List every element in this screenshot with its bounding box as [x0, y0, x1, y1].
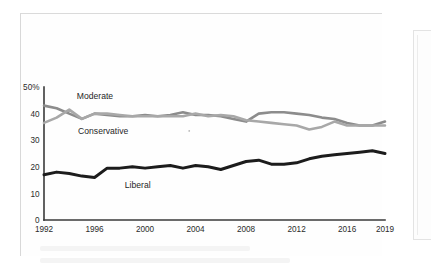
x-tick-label: 1996: [85, 225, 104, 234]
figure-page: 01020304050% 199219962000200420082012201…: [0, 0, 431, 268]
x-axis-tick-labels: 19921996200020042008201220162019: [35, 225, 395, 234]
series-label-conservative: Conservative: [78, 126, 128, 136]
line-chart[interactable]: 01020304050% 199219962000200420082012201…: [0, 0, 431, 268]
y-tick-label: 50%: [23, 83, 39, 92]
y-tick-label: 20: [30, 163, 40, 172]
y-tick-label: 30: [30, 136, 40, 145]
series-inline-labels: ModerateConservativeLiberal: [77, 91, 151, 190]
series-line-liberal[interactable]: [44, 151, 385, 178]
x-tick-label: 2016: [338, 225, 357, 234]
x-tick-label: 2004: [186, 225, 205, 234]
x-tick-label: 2019: [376, 225, 395, 234]
y-tick-label: 10: [30, 190, 40, 199]
series-label-liberal: Liberal: [125, 180, 151, 190]
series-lines[interactable]: [44, 106, 385, 178]
y-axis-tick-labels: 01020304050%: [23, 83, 40, 225]
scan-speck: [188, 130, 190, 132]
y-tick-label: 40: [30, 110, 40, 119]
x-tick-label: 2000: [136, 225, 155, 234]
x-tick-label: 2008: [237, 225, 256, 234]
x-tick-label: 1992: [35, 225, 54, 234]
series-label-moderate: Moderate: [77, 91, 114, 101]
x-tick-label: 2012: [287, 225, 306, 234]
chart-svg: 01020304050% 199219962000200420082012201…: [0, 0, 431, 268]
